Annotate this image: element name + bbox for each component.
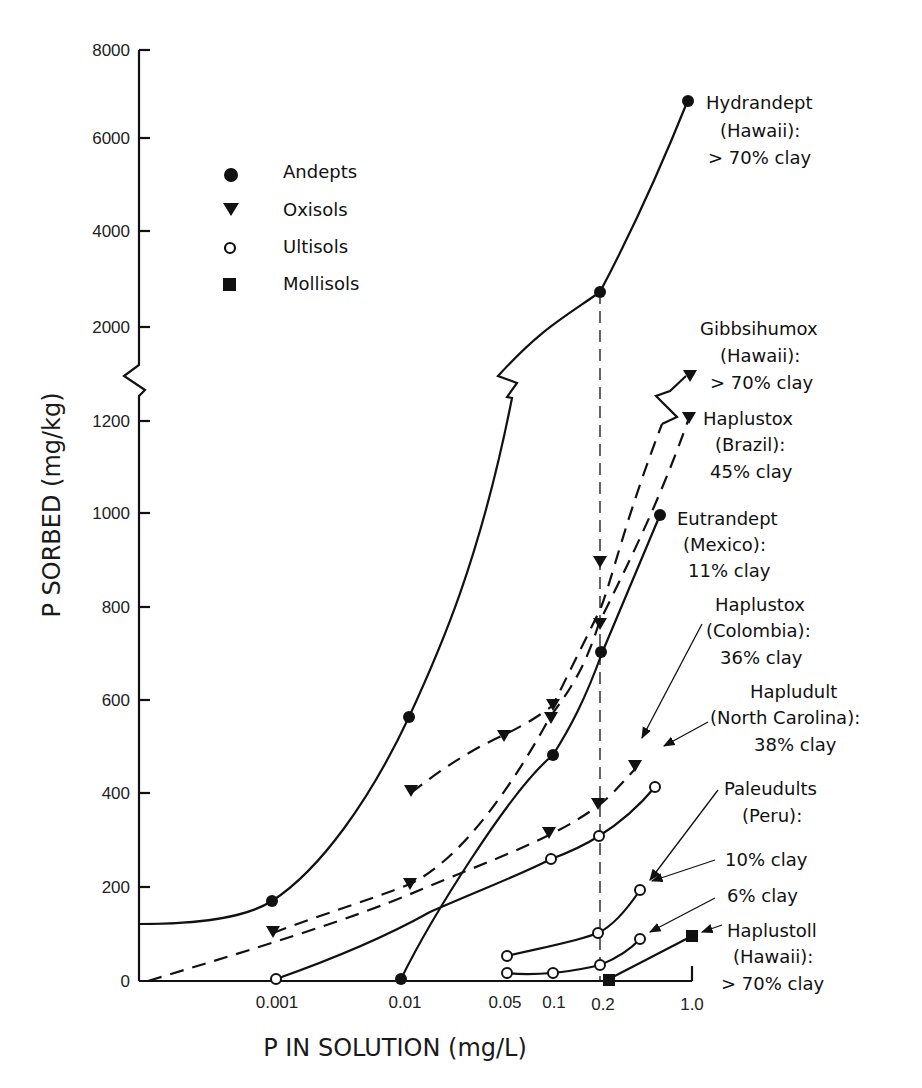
- svg-text:38% clay: 38% clay: [754, 734, 837, 755]
- annotation-haplustox-brazil: Haplustox (Brazil): 45% clay: [703, 408, 793, 482]
- sorption-chart: 8000 6000 4000 2000 1200 1000 800 600 40…: [0, 0, 922, 1088]
- svg-text:(Hawaii):: (Hawaii):: [720, 345, 800, 366]
- svg-text:(Brazil):: (Brazil):: [715, 434, 785, 455]
- y-tick-200: 200: [102, 878, 130, 897]
- svg-text:Paleudults: Paleudults: [724, 778, 817, 799]
- y-tick-800: 800: [102, 598, 130, 617]
- series-eutrandept: [395, 509, 666, 985]
- svg-text:Hapludult: Hapludult: [750, 681, 837, 702]
- svg-text:11% clay: 11% clay: [688, 560, 771, 581]
- ultisols-legend-icon: [225, 243, 235, 253]
- series-haplustox-colombia: [148, 760, 642, 981]
- svg-text:Eutrandept: Eutrandept: [677, 508, 778, 529]
- y-tick-1000: 1000: [92, 504, 130, 523]
- series-paleudults-10: [502, 885, 645, 961]
- annotation-haplustoll: Haplustoll (Hawaii): > 70% clay: [721, 920, 824, 994]
- svg-text:Hydrandept: Hydrandept: [706, 92, 812, 113]
- y-tick-6000: 6000: [92, 129, 130, 148]
- x-tick-1.0: 1.0: [680, 995, 704, 1014]
- x-axis-title: P IN SOLUTION (mg/L): [263, 1034, 527, 1062]
- legend-mollisols: Mollisols: [283, 273, 359, 294]
- legend-ultisols: Ultisols: [283, 236, 348, 257]
- svg-text:6% clay: 6% clay: [727, 885, 798, 906]
- legend: Andepts Oxisols Ultisols Mollisols: [223, 161, 359, 294]
- svg-text:(Peru):: (Peru):: [742, 805, 802, 826]
- y-tick-600: 600: [102, 691, 130, 710]
- y-axis: 8000 6000 4000 2000 1200 1000 800 600 40…: [92, 41, 150, 991]
- annotation-paleudults: Paleudults (Peru): 10% clay 6% clay: [724, 778, 817, 906]
- y-tick-400: 400: [102, 784, 130, 803]
- y-tick-2000: 2000: [92, 318, 130, 337]
- y-tick-1200: 1200: [92, 412, 130, 431]
- oxisols-legend-icon: [223, 203, 239, 216]
- svg-text:10% clay: 10% clay: [725, 849, 808, 870]
- legend-andepts: Andepts: [283, 161, 357, 182]
- svg-text:(Mexico):: (Mexico):: [683, 534, 766, 555]
- svg-text:(Hawaii):: (Hawaii):: [720, 120, 800, 141]
- svg-text:Haplustoll: Haplustoll: [727, 920, 817, 941]
- svg-text:Haplustox: Haplustox: [715, 594, 805, 615]
- series-haplustox-brazil: [266, 412, 696, 938]
- annotation-eutrandept: Eutrandept (Mexico): 11% clay: [677, 508, 778, 581]
- x-tick-0.2: 0.2: [591, 995, 615, 1014]
- legend-oxisols: Oxisols: [283, 199, 348, 220]
- annotation-haplustox-colombia: Haplustox (Colombia): 36% clay: [706, 594, 811, 668]
- annotation-gibbsihumox: Gibbsihumox (Hawaii): > 70% clay: [700, 318, 818, 393]
- series-gibbsihumox: [404, 370, 697, 797]
- svg-text:Gibbsihumox: Gibbsihumox: [700, 318, 818, 339]
- y-axis-title: P SORBED (mg/kg): [38, 392, 66, 617]
- x-tick-0.01: 0.01: [388, 993, 421, 1012]
- svg-text:(North Carolina):: (North Carolina):: [710, 707, 860, 728]
- y-tick-8000: 8000: [92, 41, 130, 60]
- svg-text:> 70% clay: > 70% clay: [708, 147, 811, 168]
- andepts-legend-icon: [224, 168, 238, 182]
- annotation-hapludult: Hapludult (North Carolina): 38% clay: [710, 681, 860, 755]
- series-hydrandept: [139, 95, 694, 924]
- svg-text:(Hawaii):: (Hawaii):: [733, 946, 813, 967]
- svg-text:Haplustox: Haplustox: [703, 408, 793, 429]
- svg-text:> 70% clay: > 70% clay: [710, 372, 813, 393]
- mollisols-legend-icon: [223, 278, 236, 291]
- series-hapludult: [271, 782, 660, 984]
- svg-text:(Colombia):: (Colombia):: [706, 620, 811, 641]
- y-tick-0: 0: [121, 972, 130, 991]
- x-tick-0.1: 0.1: [542, 993, 566, 1012]
- x-tick-0.05: 0.05: [488, 993, 521, 1012]
- x-tick-0.001: 0.001: [256, 993, 299, 1012]
- y-tick-4000: 4000: [92, 222, 130, 241]
- svg-text:> 70% clay: > 70% clay: [721, 973, 824, 994]
- annotation-hydrandept: Hydrandept (Hawaii): > 70% clay: [706, 92, 812, 168]
- leader-arrows: [642, 624, 722, 932]
- svg-text:36% clay: 36% clay: [720, 647, 803, 668]
- svg-text:45% clay: 45% clay: [710, 461, 793, 482]
